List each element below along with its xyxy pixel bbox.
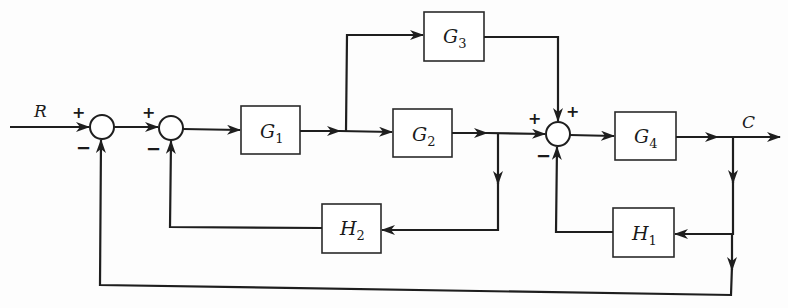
input-label: R xyxy=(33,101,47,121)
wire-g1-g2 xyxy=(340,131,392,132)
output-label: C xyxy=(742,112,755,132)
wire-s3-g4 xyxy=(570,135,614,136)
plus-sign: + xyxy=(528,109,541,128)
block-h1: H1 xyxy=(613,208,674,257)
minus-sign: − xyxy=(146,138,161,159)
output-signal-c: C xyxy=(715,112,780,137)
wire-to-h2 xyxy=(382,180,498,230)
wire-s2-g1 xyxy=(183,129,240,130)
wire-g2-s3 xyxy=(487,133,545,134)
summing-junction-2: + − xyxy=(142,103,183,159)
summing-junction-1: + − xyxy=(72,103,114,158)
plus-sign: + xyxy=(142,103,155,122)
minus-sign: − xyxy=(76,137,91,158)
plus-sign: + xyxy=(566,102,579,121)
wire-to-h1 xyxy=(675,180,733,234)
wire-h1-s3 xyxy=(556,147,613,232)
wire-g3-s3 xyxy=(484,37,558,121)
block-diagram: R + − + − G1 G3 G2 H2 xyxy=(0,0,788,308)
block-g1: G1 xyxy=(241,106,300,154)
block-g2: G2 xyxy=(393,109,452,157)
block-h2: H2 xyxy=(322,204,381,253)
minus-sign: − xyxy=(536,145,551,166)
block-g4: G4 xyxy=(615,112,676,160)
plus-sign: + xyxy=(72,103,85,122)
block-g3: G3 xyxy=(424,12,484,61)
